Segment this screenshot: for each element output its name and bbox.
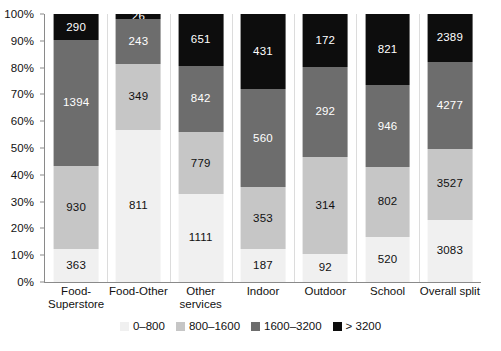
bar-segment[interactable]: 26 (116, 14, 161, 19)
x-axis: Food-SuperstoreFood-OtherOtherservicesIn… (45, 285, 481, 313)
legend-swatch-icon (333, 322, 342, 331)
bar-segment-value-label: 92 (319, 262, 332, 274)
x-axis-label-line: School (356, 285, 418, 298)
x-axis-tick-label: Food-Superstore (45, 285, 107, 310)
bar-segment-value-label: 651 (191, 34, 211, 46)
y-axis-tick-label: 80% (11, 62, 34, 74)
plot-wrapper: 0%10%20%30%40%50%60%70%80%90%100% 363930… (0, 14, 501, 282)
bar-segment[interactable]: 243 (116, 19, 161, 65)
y-axis-tick-label: 0% (17, 276, 34, 288)
legend-item[interactable]: 0–800 (120, 320, 165, 332)
bar-column[interactable]: 187353560431 (232, 14, 294, 282)
bar-segment[interactable]: 930 (54, 166, 99, 250)
bar-column[interactable]: 92314292172 (294, 14, 356, 282)
x-axis-label-line: Superstore (45, 298, 107, 311)
x-axis-label-line: Outdoor (294, 285, 356, 298)
bar-segment-value-label: 243 (129, 36, 149, 48)
bar-segment-value-label: 842 (191, 93, 211, 105)
stacked-bar[interactable]: 1111779842651 (178, 14, 223, 282)
bar-segment[interactable]: 811 (116, 130, 161, 282)
bar-column[interactable]: 3639301394290 (45, 14, 107, 282)
x-axis-label-line: Food-Other (107, 285, 169, 298)
bar-segment[interactable]: 651 (178, 14, 223, 65)
x-axis-label-line: Overall split (419, 285, 481, 298)
bar-segment-value-label: 779 (191, 158, 211, 170)
bar-segment[interactable]: 560 (241, 89, 286, 187)
x-axis-label-line: Indoor (232, 285, 294, 298)
bar-segment-value-label: 314 (315, 200, 335, 212)
bar-column[interactable]: 520802946821 (356, 14, 418, 282)
x-axis-tick-label: School (356, 285, 418, 298)
y-axis-tick-label: 100% (4, 8, 34, 20)
bar-segment-value-label: 3083 (437, 245, 463, 257)
bar-segment[interactable]: 292 (303, 67, 348, 157)
legend-label: 1600–3200 (264, 320, 322, 332)
bar-segment[interactable]: 363 (54, 249, 99, 282)
bar-segment[interactable]: 946 (365, 85, 410, 167)
x-axis-line (44, 282, 481, 283)
bar-segment-value-label: 2389 (437, 32, 463, 44)
stacked-bar[interactable]: 187353560431 (241, 14, 286, 282)
legend-swatch-icon (120, 322, 129, 331)
bar-segment-value-label: 172 (315, 35, 335, 47)
legend-item[interactable]: 800–1600 (176, 320, 240, 332)
stacked-bar[interactable]: 92314292172 (303, 14, 348, 282)
bar-column[interactable]: 3083352742772389 (419, 14, 481, 282)
y-axis-tick-label: 90% (11, 35, 34, 47)
bar-segment[interactable]: 3527 (427, 149, 472, 220)
bar-segment-value-label: 560 (253, 133, 273, 145)
bar-segment-value-label: 802 (378, 196, 398, 208)
bar-segment-value-label: 811 (129, 200, 148, 212)
legend-item[interactable]: 1600–3200 (251, 320, 322, 332)
bar-column[interactable]: 1111779842651 (170, 14, 232, 282)
stacked-bar[interactable]: 3083352742772389 (427, 14, 472, 282)
legend-label: 800–1600 (189, 320, 240, 332)
bar-segment[interactable]: 4277 (427, 62, 472, 148)
bar-segment-value-label: 946 (378, 121, 398, 133)
bar-segment-value-label: 520 (378, 254, 398, 266)
legend-swatch-icon (251, 322, 260, 331)
bar-column[interactable]: 81134924326 (107, 14, 169, 282)
bar-segment[interactable]: 802 (365, 167, 410, 237)
bar-segment[interactable]: 172 (303, 14, 348, 67)
bar-segment[interactable]: 353 (241, 187, 286, 249)
bar-segment-value-label: 363 (66, 260, 86, 272)
bar-segment[interactable]: 1394 (54, 40, 99, 165)
bar-segment[interactable]: 2389 (427, 14, 472, 62)
bar-segment[interactable]: 431 (241, 14, 286, 90)
bar-segment-value-label: 1394 (63, 97, 89, 109)
bar-segment-value-label: 292 (315, 106, 335, 118)
stacked-bar[interactable]: 81134924326 (116, 14, 161, 282)
x-axis-tick-label: Food-Other (107, 285, 169, 298)
x-axis-tick-label: Overall split (419, 285, 481, 298)
bar-segment[interactable]: 779 (178, 132, 223, 194)
bar-segment[interactable]: 314 (303, 157, 348, 254)
stacked-bar[interactable]: 3639301394290 (54, 14, 99, 282)
y-axis-tick-label: 60% (11, 115, 34, 127)
bar-segment-value-label: 930 (66, 202, 86, 214)
x-axis-label-line: Food- (45, 285, 107, 298)
bar-segment-value-label: 431 (253, 46, 273, 58)
bar-segment[interactable]: 3083 (427, 220, 472, 282)
plot-area: 3639301394290811349243261111779842651187… (45, 14, 481, 282)
bar-segment-value-label: 1111 (189, 232, 213, 244)
legend-item[interactable]: > 3200 (333, 320, 382, 332)
y-axis-tick-label: 70% (11, 88, 34, 100)
bar-segment[interactable]: 187 (241, 249, 286, 282)
bar-segment[interactable]: 520 (365, 237, 410, 282)
bar-segment-value-label: 26 (132, 14, 145, 19)
bar-segment[interactable]: 92 (303, 254, 348, 282)
bar-segment-value-label: 4277 (437, 100, 463, 112)
y-axis-tick-label: 10% (11, 249, 34, 261)
y-axis-tick-label: 20% (11, 222, 34, 234)
bar-segment[interactable]: 290 (54, 14, 99, 40)
stacked-bar[interactable]: 520802946821 (365, 14, 410, 282)
bar-segment[interactable]: 1111 (178, 194, 223, 282)
y-axis-tick-label: 50% (11, 142, 34, 154)
bar-segment[interactable]: 349 (116, 64, 161, 129)
stacked-bar-chart: 0%10%20%30%40%50%60%70%80%90%100% 363930… (0, 0, 501, 351)
legend-swatch-icon (176, 322, 185, 331)
bar-segment-value-label: 353 (253, 213, 273, 225)
bar-segment[interactable]: 842 (178, 66, 223, 133)
bar-segment[interactable]: 821 (365, 14, 410, 85)
